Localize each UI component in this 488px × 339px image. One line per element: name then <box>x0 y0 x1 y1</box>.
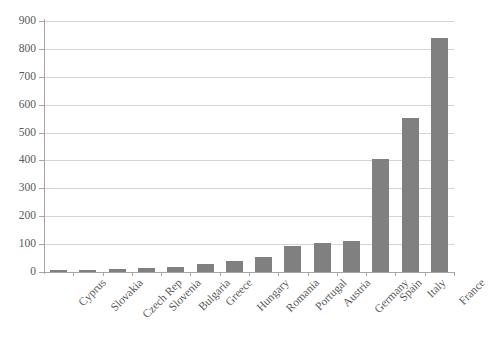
x-axis-ticks <box>44 272 454 276</box>
bar-slot <box>249 21 278 272</box>
x-axis-tick-label-text: Cyprus <box>77 277 109 309</box>
bar[interactable] <box>343 241 360 272</box>
bar[interactable] <box>255 257 272 272</box>
bar[interactable] <box>197 264 214 272</box>
y-axis-tick-label: 100 <box>19 238 36 250</box>
bar[interactable] <box>372 159 389 272</box>
x-axis-labels: CyprusSlovakiaCzech RepSloveniaBulgariaG… <box>44 277 454 339</box>
y-axis-tick-label: 900 <box>19 15 36 27</box>
y-axis-tick-label: 600 <box>19 99 36 111</box>
x-axis-tick-label: Italy <box>425 277 448 300</box>
x-axis-tick <box>220 272 221 276</box>
y-axis-tick <box>39 105 44 106</box>
x-axis-tick <box>278 272 279 276</box>
y-axis-tick-label: 400 <box>19 155 36 167</box>
bar-slot <box>161 21 190 272</box>
bar[interactable] <box>314 243 331 272</box>
bar-slot <box>278 21 307 272</box>
x-axis-tick <box>454 272 455 276</box>
y-axis-tick-label: 800 <box>19 43 36 55</box>
x-axis-tick-label: Slovakia <box>108 277 145 314</box>
x-axis-tick-label: Cyprus <box>77 277 109 309</box>
x-axis-tick-label-text: Italy <box>425 277 448 300</box>
y-axis-line <box>44 19 45 274</box>
bar-slot <box>425 21 454 272</box>
x-axis-tick <box>190 272 191 276</box>
y-axis-tick <box>39 188 44 189</box>
y-axis-labels: 0100200300400500600700800900 <box>0 0 36 339</box>
bar-slot <box>308 21 337 272</box>
bar-slot <box>395 21 424 272</box>
x-axis-tick <box>337 272 338 276</box>
y-axis-tick <box>39 133 44 134</box>
bar[interactable] <box>226 261 243 272</box>
y-axis-tick-label: 300 <box>19 183 36 195</box>
y-axis-tick-label: 0 <box>30 266 36 278</box>
bar-slot <box>73 21 102 272</box>
x-axis-tick <box>395 272 396 276</box>
x-axis-tick-label: France <box>457 277 487 307</box>
bar-slot <box>190 21 219 272</box>
bar-slot <box>132 21 161 272</box>
plot-area <box>44 21 454 272</box>
bar-slot <box>103 21 132 272</box>
y-axis-tick-label: 700 <box>19 71 36 83</box>
x-axis-tick-label: Romania <box>285 277 322 314</box>
x-axis-tick <box>73 272 74 276</box>
y-axis-tick <box>39 49 44 50</box>
x-axis-tick-label-text: Romania <box>285 277 322 314</box>
x-axis-tick-label-text: Slovakia <box>108 277 145 314</box>
bar-slot <box>337 21 366 272</box>
y-axis-tick-label: 500 <box>19 127 36 139</box>
x-axis-tick <box>103 272 104 276</box>
y-axis-tick <box>39 21 44 22</box>
y-axis-tick-label: 200 <box>19 210 36 222</box>
x-axis-tick <box>132 272 133 276</box>
x-axis-tick <box>425 272 426 276</box>
x-axis-tick <box>366 272 367 276</box>
bar[interactable] <box>431 38 448 272</box>
x-axis-tick <box>308 272 309 276</box>
bar-slot <box>366 21 395 272</box>
y-axis-tick <box>39 244 44 245</box>
bar-slot <box>44 21 73 272</box>
x-axis-tick <box>161 272 162 276</box>
y-axis-tick <box>39 216 44 217</box>
bar[interactable] <box>402 118 419 273</box>
bar[interactable] <box>284 246 301 272</box>
y-axis-tick <box>39 160 44 161</box>
x-axis-tick-label-text: France <box>457 277 487 307</box>
y-axis-tick <box>39 77 44 78</box>
x-axis-tick <box>249 272 250 276</box>
bar-slot <box>220 21 249 272</box>
